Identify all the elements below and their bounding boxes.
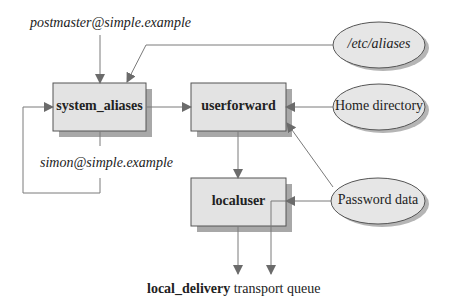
simon-address-label: simon@simple.example [40,155,173,171]
transport-suffix: transport queue [230,281,320,296]
localuser-label: localuser [191,193,286,209]
password-data-label: Password data [331,192,425,208]
home-directory-label: Home directory [333,98,425,114]
postmaster-address-label: postmaster@simple.example [30,15,191,31]
etc-aliases-label: /etc/aliases [333,36,425,52]
transport-name: local_delivery [147,281,230,296]
arrow-password-data-to-userforward [287,123,333,187]
transport-queue-label: local_delivery transport queue [147,281,320,297]
system-aliases-label: system_aliases [53,98,146,114]
arrow-etc-aliases-to-system-aliases [127,45,333,82]
userforward-label: userforward [191,98,286,114]
